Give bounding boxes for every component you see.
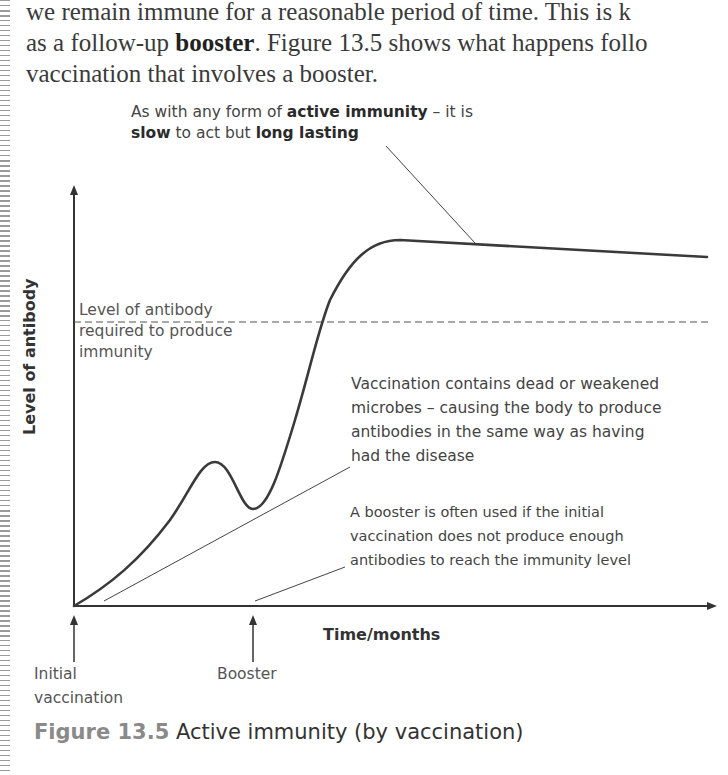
leader-booster — [255, 567, 345, 601]
annotation-threshold: Level of antibody required to produce im… — [79, 300, 232, 363]
ann-text: As with any form of — [131, 103, 287, 121]
threshold-line-1: Level of antibody — [79, 300, 232, 321]
booster-label: Booster — [217, 662, 277, 686]
figure-title: Active immunity (by vaccination) — [169, 720, 523, 744]
annotation-booster: A booster is often used if the initial v… — [350, 500, 631, 572]
booster-note-line-1: A booster is often used if the initial — [350, 500, 631, 524]
leader-vaccination — [104, 467, 350, 601]
x-axis-label: Time/months — [323, 625, 440, 644]
ann-text: to act but — [171, 124, 256, 142]
long-lasting-term: long lasting — [256, 124, 359, 142]
vaccination-line-1: Vaccination contains dead or weakened — [351, 372, 662, 396]
figure-number: Figure 13.5 — [34, 720, 169, 744]
threshold-line-2: required to produce — [79, 321, 232, 342]
vaccination-line-3: antibodies in the same way as having — [351, 420, 662, 444]
active-immunity-term: active immunity — [287, 103, 428, 121]
initial-label-line-1: Initial — [34, 662, 123, 686]
threshold-line-3: immunity — [79, 342, 232, 363]
slow-term: slow — [131, 124, 171, 142]
booster-note-line-2: vaccination does not produce enough — [350, 524, 631, 548]
y-axis-label: Level of antibody — [20, 278, 39, 435]
vaccination-line-2: microbes – causing the body to produce — [351, 396, 662, 420]
annotation-vaccination: Vaccination contains dead or weakened mi… — [351, 372, 662, 468]
figure-caption: Figure 13.5 Active immunity (by vaccinat… — [34, 720, 524, 744]
initial-vaccination-label: Initial vaccination — [34, 662, 123, 710]
initial-label-line-2: vaccination — [34, 686, 123, 710]
leader-long-lasting — [386, 146, 475, 243]
ann-text: – it is — [428, 103, 473, 121]
annotation-active-immunity: As with any form of active immunity – it… — [131, 102, 473, 144]
booster-note-line-3: antibodies to reach the immunity level — [350, 548, 631, 572]
vaccination-line-4: had the disease — [351, 444, 662, 468]
